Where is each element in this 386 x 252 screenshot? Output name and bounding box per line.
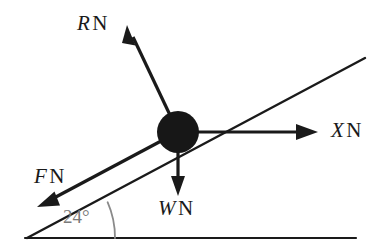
force-arrowhead-R [122, 25, 136, 46]
force-arrow-F-shaft [53, 132, 178, 199]
force-label-F: FN [34, 164, 65, 189]
force-arrowhead-F [37, 192, 60, 208]
force-symbol-W: W [158, 196, 176, 220]
particle-body [157, 111, 199, 153]
force-label-R: RN [77, 11, 108, 36]
angle-arc [108, 202, 115, 238]
force-unit-R: N [92, 11, 108, 35]
force-arrowhead-W [171, 176, 185, 196]
force-label-X: XN [331, 118, 362, 143]
force-unit-W: N [178, 196, 194, 220]
force-label-W: WN [158, 196, 194, 221]
angle-label: 24° [63, 206, 90, 228]
force-symbol-F: F [34, 164, 47, 188]
force-arrowhead-X [296, 124, 318, 140]
force-unit-F: N [49, 164, 65, 188]
force-symbol-R: R [77, 11, 90, 35]
force-unit-X: N [346, 118, 362, 142]
force-diagram: RN XN FN WN 24° [0, 0, 386, 252]
force-symbol-X: X [331, 118, 344, 142]
